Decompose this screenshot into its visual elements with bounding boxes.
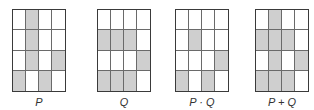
empty-cell <box>124 10 137 30</box>
shaded-cell <box>295 51 308 71</box>
shaded-cell <box>269 10 282 30</box>
empty-cell <box>176 10 189 30</box>
empty-cell <box>52 30 65 50</box>
shaded-cell <box>189 30 202 50</box>
empty-cell <box>26 71 39 91</box>
empty-cell <box>39 10 52 30</box>
empty-cell <box>295 30 308 50</box>
empty-cell <box>52 10 65 30</box>
empty-cell <box>176 51 189 71</box>
shaded-cell <box>39 71 52 91</box>
shaded-cell <box>98 71 111 91</box>
empty-cell <box>202 51 215 71</box>
grid-p-panel: P <box>12 9 66 92</box>
grid-p-or-q-panel: P + Q <box>255 9 309 92</box>
shaded-cell <box>124 30 137 50</box>
shaded-cell <box>282 30 295 50</box>
empty-cell <box>282 10 295 30</box>
shaded-cell <box>26 30 39 50</box>
grid-p-label: P <box>12 96 66 108</box>
grid-p-and-q-panel: P · Q <box>175 9 229 92</box>
shaded-cell <box>52 51 65 71</box>
empty-cell <box>13 51 26 71</box>
grid-p <box>12 9 66 92</box>
empty-cell <box>111 51 124 71</box>
empty-cell <box>202 30 215 50</box>
grid-p-or-q <box>255 9 309 92</box>
shaded-cell <box>256 71 269 91</box>
empty-cell <box>124 51 137 71</box>
empty-cell <box>215 10 228 30</box>
grid-p-or-q-label: P + Q <box>255 96 309 108</box>
empty-cell <box>52 71 65 91</box>
shaded-cell <box>13 71 26 91</box>
empty-cell <box>39 51 52 71</box>
shaded-cell <box>256 30 269 50</box>
shaded-cell <box>26 51 39 71</box>
empty-cell <box>176 30 189 50</box>
empty-cell <box>256 10 269 30</box>
empty-cell <box>189 10 202 30</box>
empty-cell <box>202 10 215 30</box>
shaded-cell <box>269 71 282 91</box>
shaded-cell <box>202 71 215 91</box>
shaded-cell <box>282 71 295 91</box>
shaded-cell <box>176 71 189 91</box>
grid-q-label: Q <box>97 96 151 108</box>
empty-cell <box>39 30 52 50</box>
shaded-cell <box>111 30 124 50</box>
grid-q-panel: Q <box>97 9 151 92</box>
shaded-cell <box>111 71 124 91</box>
empty-cell <box>189 51 202 71</box>
empty-cell <box>189 71 202 91</box>
shaded-cell <box>124 71 137 91</box>
empty-cell <box>282 51 295 71</box>
shaded-cell <box>215 51 228 71</box>
empty-cell <box>295 71 308 91</box>
empty-cell <box>137 71 150 91</box>
empty-cell <box>13 10 26 30</box>
empty-cell <box>98 10 111 30</box>
empty-cell <box>215 30 228 50</box>
shaded-cell <box>26 10 39 30</box>
empty-cell <box>295 10 308 30</box>
grid-p-and-q-label: P · Q <box>175 96 229 108</box>
shaded-cell <box>269 51 282 71</box>
empty-cell <box>13 30 26 50</box>
empty-cell <box>137 30 150 50</box>
empty-cell <box>215 71 228 91</box>
empty-cell <box>111 10 124 30</box>
grid-q <box>97 9 151 92</box>
empty-cell <box>256 51 269 71</box>
grid-p-and-q <box>175 9 229 92</box>
empty-cell <box>137 10 150 30</box>
shaded-cell <box>98 30 111 50</box>
shaded-cell <box>137 51 150 71</box>
shaded-cell <box>269 30 282 50</box>
empty-cell <box>98 51 111 71</box>
